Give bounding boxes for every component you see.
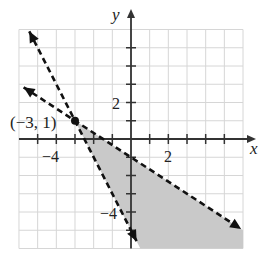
inequality-graph: y x (−3, 1) −4 2 2 −4 [0,0,265,253]
y-axis-label: y [110,5,120,24]
y-tick-label-neg4: −4 [100,205,117,222]
x-tick-label-neg4: −4 [42,148,59,165]
y-tick-label-2: 2 [112,95,120,112]
point-label: (−3, 1) [10,113,56,132]
x-axis-label: x [249,139,258,158]
intersection-point [71,117,79,125]
x-tick-label-2: 2 [164,148,172,165]
shaded-region [75,121,243,249]
